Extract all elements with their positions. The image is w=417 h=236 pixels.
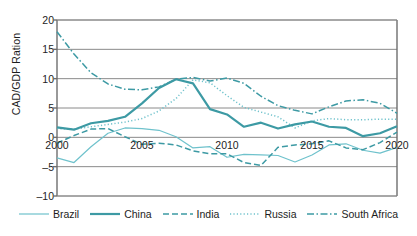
x-tick-label: 2000 — [45, 139, 68, 151]
x-tick-label: 2005 — [130, 139, 153, 151]
x-tick-label: 2015 — [300, 139, 323, 151]
legend-label: China — [124, 208, 151, 220]
x-tick-label: 2010 — [215, 139, 238, 151]
legend-item-brazil[interactable]: Brazil — [19, 208, 79, 220]
plot-area — [0, 0, 417, 236]
legend-swatch-south-africa — [307, 209, 337, 219]
x-tick-label: 2020 — [385, 139, 408, 151]
legend-swatch-russia — [230, 209, 260, 219]
legend-swatch-brazil — [19, 209, 49, 219]
legend-item-russia[interactable]: Russia — [230, 208, 296, 220]
legend-item-china[interactable]: China — [90, 208, 151, 220]
legend-label: Brazil — [53, 208, 79, 220]
legend-label: India — [197, 208, 220, 220]
legend-item-south-africa[interactable]: South Africa — [307, 208, 398, 220]
chart-legend: BrazilChinaIndiaRussiaSouth Africa — [0, 204, 417, 224]
legend-item-india[interactable]: India — [163, 208, 220, 220]
legend-swatch-india — [163, 209, 193, 219]
legend-swatch-china — [90, 209, 120, 219]
legend-label: South Africa — [341, 208, 398, 220]
legend-label: Russia — [264, 208, 296, 220]
line-chart: CAD/GDP Ration 20151050–5–10 20002005201… — [0, 0, 417, 236]
